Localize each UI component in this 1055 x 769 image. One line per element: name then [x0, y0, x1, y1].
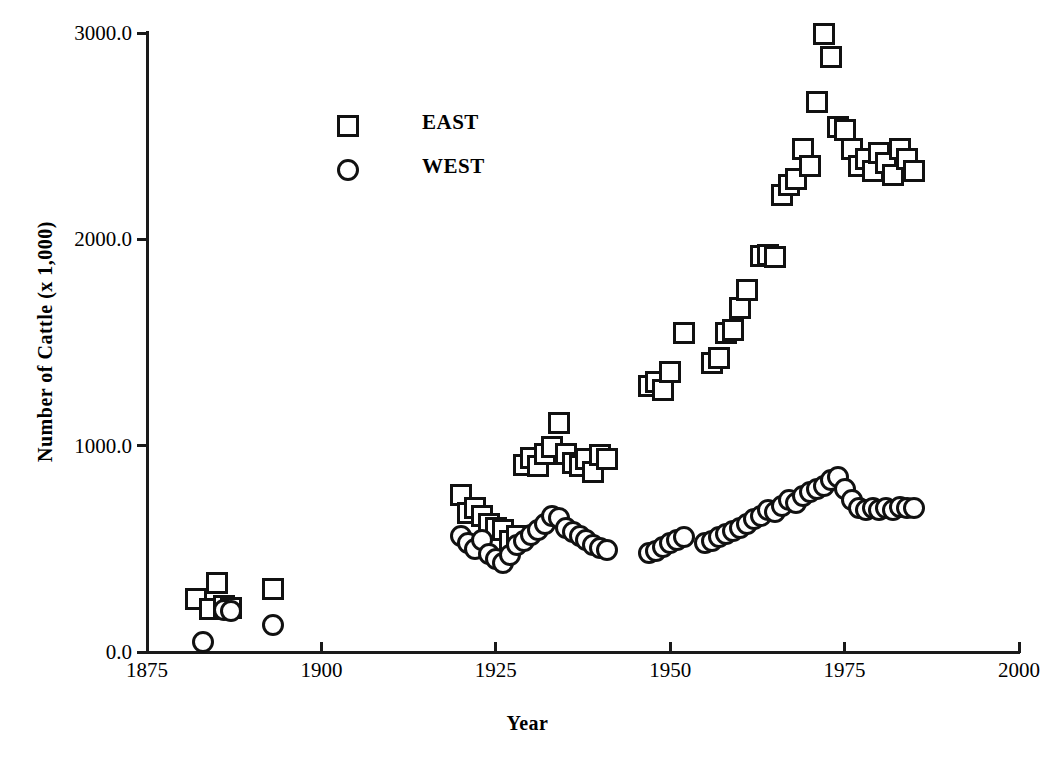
data-point-east — [673, 322, 695, 344]
data-point-west — [192, 631, 214, 653]
data-point-west — [673, 526, 695, 548]
y-axis-line — [146, 31, 149, 654]
data-point-east — [820, 46, 842, 68]
data-point-east — [659, 361, 681, 383]
x-tick-mark — [1018, 642, 1021, 653]
square-marker-icon — [337, 115, 359, 137]
legend-label-east: EAST — [422, 110, 479, 135]
x-tick-mark — [320, 642, 323, 653]
circle-marker-icon — [337, 159, 359, 181]
data-point-west — [220, 600, 242, 622]
data-point-east — [903, 160, 925, 182]
data-point-east — [799, 155, 821, 177]
x-tick-mark — [843, 642, 846, 653]
legend-label-west: WEST — [422, 154, 485, 179]
chart-legend: EAST WEST — [337, 110, 567, 198]
data-point-east — [813, 23, 835, 45]
legend-item-west[interactable]: WEST — [337, 154, 567, 198]
y-tick-label: 3000.0 — [74, 21, 132, 46]
data-point-east — [206, 572, 228, 594]
x-tick-label: 1975 — [824, 658, 866, 683]
data-point-east — [806, 91, 828, 113]
data-point-east — [722, 319, 744, 341]
x-tick-mark — [494, 642, 497, 653]
x-tick-label: 1900 — [300, 658, 342, 683]
data-point-east — [736, 279, 758, 301]
data-point-west — [903, 497, 925, 519]
x-tick-mark — [146, 642, 149, 653]
x-axis-line — [146, 651, 1020, 654]
y-tick-label: 2000.0 — [74, 227, 132, 252]
data-point-east — [708, 347, 730, 369]
x-tick-mark — [669, 642, 672, 653]
x-tick-label: 1925 — [475, 658, 517, 683]
legend-item-east[interactable]: EAST — [337, 110, 567, 154]
y-tick-mark — [137, 444, 147, 447]
data-point-west — [262, 614, 284, 636]
data-point-east — [262, 578, 284, 600]
data-point-east — [596, 448, 618, 470]
x-tick-label: 1875 — [126, 658, 168, 683]
y-axis-title: Number of Cattle (x 1,000) — [34, 82, 57, 602]
y-tick-mark — [137, 238, 147, 241]
cattle-scatter-chart: 0.01000.02000.03000.0 187519001925195019… — [0, 0, 1055, 769]
y-tick-mark — [137, 32, 147, 35]
x-tick-label: 1950 — [649, 658, 691, 683]
data-point-east — [548, 412, 570, 434]
y-tick-label: 1000.0 — [74, 433, 132, 458]
x-axis-title: Year — [0, 712, 1055, 735]
x-tick-label: 2000 — [998, 658, 1040, 683]
data-point-west — [596, 539, 618, 561]
data-point-east — [764, 246, 786, 268]
